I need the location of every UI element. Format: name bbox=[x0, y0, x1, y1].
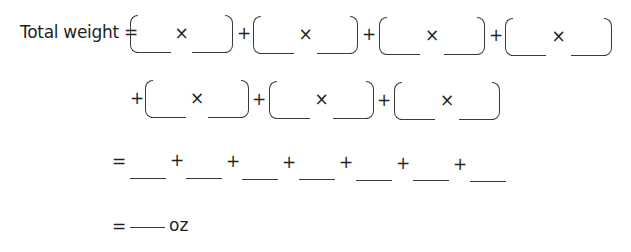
blank-factor-b[interactable] bbox=[333, 118, 368, 119]
blank-product-5[interactable] bbox=[356, 180, 392, 181]
blank-factor-a[interactable] bbox=[151, 117, 186, 118]
unit-label: oz bbox=[169, 215, 188, 235]
blank-product-4[interactable] bbox=[299, 179, 335, 180]
right-paren bbox=[241, 80, 249, 118]
plus-sign: + bbox=[130, 88, 144, 108]
equals-sign: = bbox=[112, 216, 126, 236]
product-group-1: × bbox=[130, 15, 233, 55]
blank-product-2[interactable] bbox=[186, 178, 222, 179]
plus-sign: + bbox=[362, 24, 376, 44]
right-paren bbox=[477, 17, 485, 55]
plus-sign: + bbox=[453, 154, 467, 174]
blank-factor-a[interactable] bbox=[385, 54, 420, 55]
plus-sign: + bbox=[237, 23, 251, 43]
blank-factor-a[interactable] bbox=[136, 52, 171, 53]
plus-sign: + bbox=[339, 152, 353, 172]
blank-factor-b[interactable] bbox=[571, 55, 606, 56]
times-sign: × bbox=[130, 23, 233, 43]
times-sign: × bbox=[253, 24, 358, 44]
blank-factor-b[interactable] bbox=[192, 52, 227, 53]
plus-sign: + bbox=[170, 150, 184, 170]
times-sign: × bbox=[269, 89, 374, 109]
times-sign: × bbox=[379, 25, 485, 45]
plus-sign: + bbox=[489, 25, 503, 45]
blank-factor-a[interactable] bbox=[511, 55, 546, 56]
blank-product-7[interactable] bbox=[470, 181, 506, 182]
right-paren bbox=[604, 18, 612, 56]
plus-sign: + bbox=[252, 89, 266, 109]
product-group-2: × bbox=[253, 16, 358, 56]
blank-factor-b[interactable] bbox=[444, 54, 479, 55]
blank-factor-a[interactable] bbox=[400, 119, 435, 120]
blank-factor-b[interactable] bbox=[317, 53, 352, 54]
right-paren bbox=[366, 81, 374, 119]
blank-total[interactable] bbox=[130, 227, 165, 228]
right-paren bbox=[225, 15, 233, 53]
product-group-7: × bbox=[394, 82, 500, 122]
blank-product-1[interactable] bbox=[130, 178, 166, 179]
product-group-6: × bbox=[269, 81, 374, 121]
equals-sign: = bbox=[112, 151, 126, 171]
product-group-4: × bbox=[505, 18, 612, 58]
blank-factor-b[interactable] bbox=[208, 117, 243, 118]
product-group-3: × bbox=[379, 17, 485, 57]
plus-sign: + bbox=[396, 153, 410, 173]
times-sign: × bbox=[145, 88, 249, 108]
blank-product-6[interactable] bbox=[413, 180, 449, 181]
times-sign: × bbox=[394, 90, 500, 110]
blank-factor-a[interactable] bbox=[275, 118, 310, 119]
blank-product-3[interactable] bbox=[242, 179, 278, 180]
times-sign: × bbox=[505, 26, 612, 46]
blank-factor-a[interactable] bbox=[259, 53, 294, 54]
blank-factor-b[interactable] bbox=[459, 119, 494, 120]
plus-sign: + bbox=[226, 151, 240, 171]
right-paren bbox=[492, 82, 500, 120]
total-weight-label: Total weight = bbox=[20, 22, 138, 42]
product-group-5: × bbox=[145, 80, 249, 120]
plus-sign: + bbox=[282, 152, 296, 172]
plus-sign: + bbox=[377, 90, 391, 110]
right-paren bbox=[350, 16, 358, 54]
